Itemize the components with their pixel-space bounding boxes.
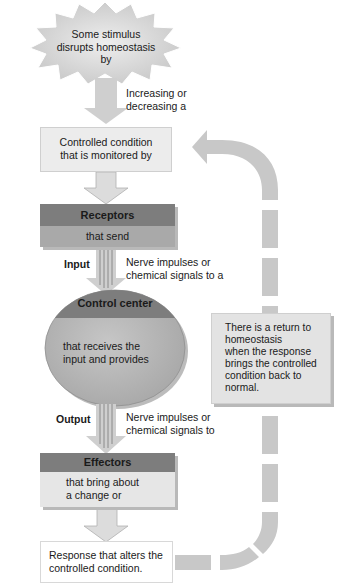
input-signal-text: Nerve impulses or chemical signals to a	[126, 256, 223, 281]
input-line1: Nerve impulses or	[126, 256, 223, 269]
output-line1: Nerve impulses or	[126, 411, 215, 424]
return-note-line: normal.	[225, 382, 317, 394]
stimulus-line2: disrupts homeostasis by	[50, 41, 162, 66]
output-signal-text: Nerve impulses or chemical signals to	[126, 411, 215, 436]
control-center-title: Control center	[45, 297, 185, 309]
receptors-title: Receptors	[40, 204, 175, 226]
controlled-condition-box: Controlled condition that is monitored b…	[40, 127, 172, 172]
arrow-input	[86, 247, 126, 295]
return-note-box: There is a return to homeostasis when th…	[211, 313, 331, 404]
effectors-line1: that bring about	[66, 476, 139, 489]
arrow-stimulus-down	[84, 78, 128, 124]
response-line1: Response that alters the	[49, 549, 163, 562]
receptors-box: Receptors that send	[40, 204, 175, 247]
receptors-body: that send	[40, 226, 175, 247]
input-label: Input	[64, 258, 90, 271]
label-line1: Increasing or	[126, 87, 187, 100]
return-note-line: homeostasis	[225, 334, 317, 346]
controlled-condition-line2: that is monitored by	[41, 149, 171, 162]
return-note-line: brings the controlled	[225, 358, 317, 370]
control-center-body: that receives the input and provides	[63, 340, 149, 365]
effectors-line2: a change or	[66, 489, 139, 502]
response-line2: controlled condition.	[49, 562, 163, 575]
arrow-condition-down	[84, 172, 128, 204]
response-box: Response that alters the controlled cond…	[40, 541, 173, 583]
control-center-line1: that receives the	[63, 340, 149, 353]
input-line2: chemical signals to a	[126, 269, 223, 282]
output-line2: chemical signals to	[126, 424, 215, 437]
return-note-line: when the response	[225, 346, 317, 358]
arrow-output	[86, 404, 126, 454]
stimulus-line1: Some stimulus	[50, 28, 162, 41]
label-line2: decreasing a	[126, 100, 187, 113]
stimulus-text: Some stimulus disrupts homeostasis by	[50, 28, 162, 66]
arrow-effectors-down	[84, 506, 128, 542]
effectors-title: Effectors	[40, 453, 175, 472]
effectors-box: Effectors that bring about a change or	[40, 453, 175, 507]
effectors-body: that bring about a change or	[40, 472, 175, 507]
control-center-line2: input and provides	[63, 353, 149, 366]
stimulus-arrow-label: Increasing or decreasing a	[126, 87, 187, 112]
output-label: Output	[56, 413, 90, 426]
return-note-line: condition back to	[225, 370, 317, 382]
return-note-line: There is a return to	[225, 322, 317, 334]
controlled-condition-line1: Controlled condition	[41, 136, 171, 149]
